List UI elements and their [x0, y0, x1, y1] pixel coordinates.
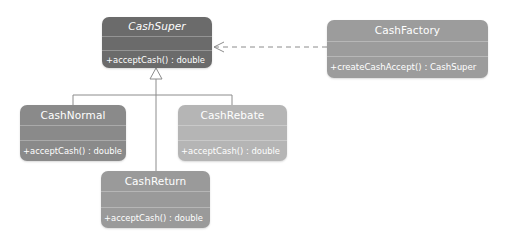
class-name: CashReturn: [101, 171, 210, 192]
attributes-section: [178, 126, 287, 141]
dependency-arrow: [214, 42, 327, 52]
class-cash-factory[interactable]: CashFactory +createCashAccept() : CashSu…: [327, 20, 488, 78]
operations-section: +createCashAccept() : CashSuper: [327, 57, 488, 73]
operation: +acceptCash() : double: [181, 146, 287, 157]
attributes-section: [20, 126, 126, 141]
class-cash-rebate[interactable]: CashRebate +acceptCash() : double: [178, 105, 287, 161]
operations-section: +acceptCash() : double: [20, 141, 126, 157]
class-name: CashRebate: [178, 105, 287, 126]
operation: +createCashAccept() : CashSuper: [330, 62, 488, 73]
operation: +acceptCash() : double: [104, 213, 210, 224]
attributes-section: [101, 192, 210, 208]
operation: +acceptCash() : double: [106, 55, 212, 66]
operations-section: +acceptCash() : double: [101, 208, 210, 224]
class-name: CashNormal: [20, 105, 126, 126]
operations-section: +acceptCash() : double: [102, 51, 212, 66]
operations-section: +acceptCash() : double: [178, 141, 287, 157]
class-cash-normal[interactable]: CashNormal +acceptCash() : double: [20, 105, 126, 161]
class-cash-return[interactable]: CashReturn +acceptCash() : double: [101, 171, 210, 228]
class-name: CashSuper: [102, 17, 212, 37]
class-name: CashFactory: [327, 20, 488, 42]
uml-diagram-canvas: CashSuper +acceptCash() : double CashFac…: [0, 0, 507, 242]
operation: +acceptCash() : double: [23, 146, 126, 157]
class-cash-super[interactable]: CashSuper +acceptCash() : double: [102, 17, 212, 68]
attributes-section: [327, 42, 488, 57]
attributes-section: [102, 37, 212, 51]
